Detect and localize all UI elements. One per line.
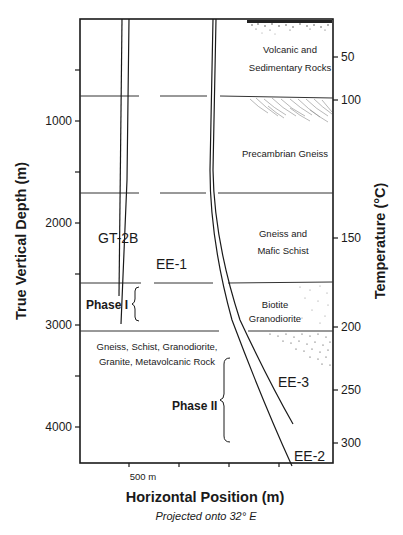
well-label-ee-2: EE-2 xyxy=(294,448,325,464)
well-label-ee-3: EE-3 xyxy=(278,374,309,390)
x-axis-title: Horizontal Position (m) xyxy=(126,489,285,505)
temp-tick-250: 250 xyxy=(341,383,361,397)
phase-1-label: Phase I xyxy=(86,298,128,312)
rock-unit-1-line1: Volcanic and xyxy=(263,44,317,55)
rock-unit-5-line2: Granite, Metavolcanic Rock xyxy=(99,356,215,367)
phase-1-brace xyxy=(132,287,139,321)
well-label-ee-1: EE-1 xyxy=(156,256,187,272)
temp-tick-150: 150 xyxy=(341,231,361,245)
x-axis-subtitle: Projected onto 32° E xyxy=(155,510,257,522)
depth-tick-1000: 1000 xyxy=(45,114,72,128)
phase-2-label: Phase II xyxy=(172,399,217,413)
well-gt-2b-path xyxy=(119,19,122,296)
temp-tick-300: 300 xyxy=(341,436,361,450)
depth-tick-4000: 4000 xyxy=(45,420,72,434)
granodiorite-stipple-texture xyxy=(300,286,329,324)
temp-tick-100: 100 xyxy=(341,93,361,107)
volcanic-stipple-texture xyxy=(247,20,332,34)
temp-tick-50: 50 xyxy=(341,50,355,64)
temp-tick-200: 200 xyxy=(341,320,361,334)
rock-unit-3-line1: Gneiss and xyxy=(259,228,307,239)
rock-unit-5-line1: Gneiss, Schist, Granodiorite, xyxy=(97,341,218,352)
phase-2-brace xyxy=(220,358,230,442)
depth-tick-2000: 2000 xyxy=(45,216,72,230)
rock-unit-1-line2: Sedimentary Rocks xyxy=(249,62,332,73)
y-axis-title: True Vertical Depth (m) xyxy=(13,162,29,320)
well-label-gt-2b: GT-2B xyxy=(98,230,138,246)
rock-unit-4-line2: Granodiorite xyxy=(249,313,301,324)
rock-unit-3-line2: Mafic Schist xyxy=(257,245,309,256)
well-ee-3-path xyxy=(213,19,293,424)
depth-tick-3000: 3000 xyxy=(45,318,72,332)
layer-boundaries xyxy=(80,96,333,331)
geologic-cross-section: 1000 2000 3000 4000 50 100 150 200 250 3… xyxy=(0,0,403,535)
x-scale-label: 500 m xyxy=(130,471,156,482)
y2-axis-title: Temperature (°C) xyxy=(372,182,388,299)
lower-stipple-texture xyxy=(269,333,330,365)
rock-unit-2-line1: Precambrian Gneiss xyxy=(242,148,328,159)
rock-unit-4-line1: Biotite xyxy=(262,299,288,310)
well-ee-1-path xyxy=(121,19,129,324)
gneiss-hatch-texture xyxy=(250,98,332,122)
